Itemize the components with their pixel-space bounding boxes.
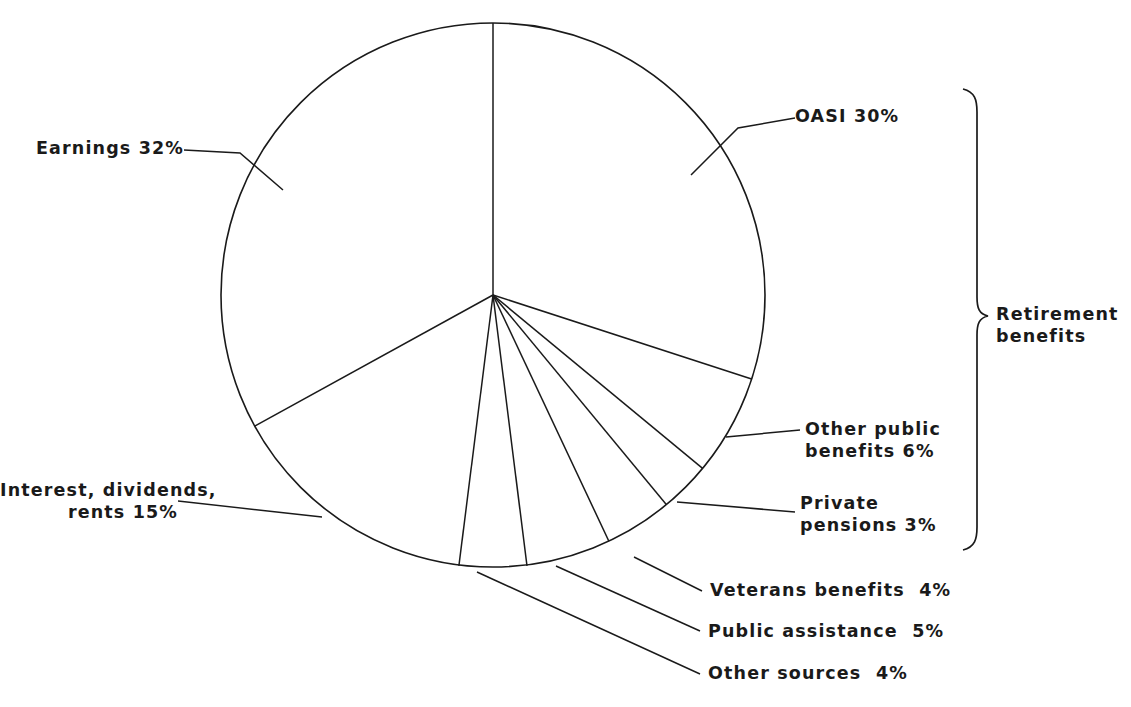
leader-line-public-assistance: [556, 566, 700, 631]
slice-label-oasi: OASI 30%: [795, 106, 899, 127]
leader-line-veterans-benefits: [634, 557, 702, 591]
slice-label-earnings: Earnings 32%: [0, 138, 184, 159]
slice-divider-oasi-otherpublic: [493, 295, 752, 379]
slice-label-interest-dividends-rents: Interest, dividends,rents 15%: [0, 479, 178, 523]
slice-label-other-sources: Other sources 4%: [708, 663, 908, 684]
pie-chart-figure: OASI 30% Earnings 32% Other publicbenefi…: [0, 0, 1131, 707]
slice-label-other-public-benefits: Other publicbenefits 6%: [805, 418, 941, 462]
slice-label-other-public-benefits-line1: Other public: [805, 419, 941, 439]
annotation-retirement-benefits-line1: Retirement: [996, 304, 1119, 324]
slice-label-private-pensions-line1: Private: [800, 493, 879, 513]
retirement-benefits-brace: [963, 89, 988, 550]
pie-chart-graphic: [0, 0, 1131, 707]
slice-label-other-public-benefits-line2: benefits 6%: [805, 441, 935, 461]
leader-line-other-sources: [477, 572, 700, 674]
slice-divider-veterans-publicassistance: [493, 295, 609, 541]
annotation-retirement-benefits-line2: benefits: [996, 326, 1086, 346]
slice-label-public-assistance: Public assistance 5%: [708, 621, 944, 642]
slice-label-interest-line2: rents 15%: [68, 502, 178, 522]
slice-label-private-pensions: Privatepensions 3%: [800, 492, 937, 536]
annotation-retirement-benefits: Retirementbenefits: [996, 303, 1119, 347]
slice-divider-othersources-interest: [459, 295, 493, 566]
slice-divider-otherpublic-privatepensions: [493, 295, 703, 468]
slice-label-interest-line1: Interest, dividends,: [0, 480, 217, 500]
leader-line-private-pensions: [677, 502, 795, 512]
slice-label-private-pensions-line2: pensions 3%: [800, 515, 937, 535]
leader-line-interest-dividends-rents: [178, 501, 322, 517]
slice-divider-interest-earnings: [255, 295, 493, 426]
slice-label-veterans-benefits: Veterans benefits 4%: [710, 580, 951, 601]
leader-line-other-public-benefits: [726, 430, 800, 437]
slice-divider-publicassistance-othersources: [493, 295, 527, 566]
slice-divider-privatepensions-veterans: [493, 295, 667, 505]
leader-line-earnings: [184, 150, 283, 190]
